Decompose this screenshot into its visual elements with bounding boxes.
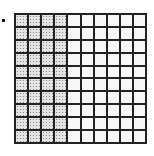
grid-cell (81, 78, 94, 91)
grid-cell (133, 40, 146, 53)
shaded-cell (28, 91, 41, 104)
grid-cell (67, 91, 80, 104)
grid-cell (94, 130, 107, 143)
grid-cell (107, 14, 120, 27)
grid-cell (133, 104, 146, 117)
grid-cell (81, 53, 94, 66)
grid-cell (133, 66, 146, 79)
shaded-cell (28, 53, 41, 66)
grid-cell (81, 14, 94, 27)
grid-cell (107, 27, 120, 40)
grid-cell (81, 91, 94, 104)
shaded-cell (41, 91, 54, 104)
grid-cell (120, 130, 133, 143)
shaded-cell (41, 14, 54, 27)
grid-cell (67, 78, 80, 91)
hundred-grid (14, 13, 147, 144)
grid-cell (107, 53, 120, 66)
grid-cell (120, 27, 133, 40)
grid-cell (120, 91, 133, 104)
grid-cell (94, 14, 107, 27)
shaded-cell (54, 104, 67, 117)
grid-cell (81, 130, 94, 143)
shaded-cell (54, 91, 67, 104)
grid-cell (94, 117, 107, 130)
grid-cell (67, 117, 80, 130)
shaded-cell (54, 53, 67, 66)
shaded-cell (41, 78, 54, 91)
grid-cell (67, 27, 80, 40)
shaded-cell (15, 78, 28, 91)
shaded-cell (41, 53, 54, 66)
grid-cell (107, 117, 120, 130)
shaded-cell (28, 130, 41, 143)
shaded-cell (54, 130, 67, 143)
grid-cell (133, 117, 146, 130)
figure-label-mark (2, 19, 5, 22)
grid-cell (81, 104, 94, 117)
grid-cell (133, 78, 146, 91)
shaded-cell (54, 78, 67, 91)
grid-cell (67, 104, 80, 117)
shaded-cell (15, 66, 28, 79)
grid-cell (94, 53, 107, 66)
shaded-cell (41, 66, 54, 79)
shaded-cell (28, 14, 41, 27)
shaded-cell (54, 117, 67, 130)
shaded-cell (15, 14, 28, 27)
grid-cell (107, 40, 120, 53)
grid-cell (120, 78, 133, 91)
grid-cell (94, 78, 107, 91)
shaded-cell (54, 27, 67, 40)
grid-cell (120, 14, 133, 27)
grid-cell (133, 14, 146, 27)
grid-cell (133, 27, 146, 40)
shaded-cell (15, 27, 28, 40)
grid-cell (67, 53, 80, 66)
shaded-cell (41, 130, 54, 143)
shaded-cell (28, 104, 41, 117)
shaded-cell (15, 53, 28, 66)
grid-cell (94, 91, 107, 104)
grid-cell (107, 130, 120, 143)
shaded-cell (54, 66, 67, 79)
grid-cell (107, 78, 120, 91)
shaded-cell (41, 117, 54, 130)
grid-cell (67, 40, 80, 53)
shaded-cell (41, 40, 54, 53)
shaded-cell (15, 40, 28, 53)
grid-cell (67, 130, 80, 143)
grid-cell (67, 66, 80, 79)
grid-cell (120, 117, 133, 130)
grid-cell (120, 40, 133, 53)
shaded-cell (28, 117, 41, 130)
grid-cell (107, 104, 120, 117)
grid-cell (67, 14, 80, 27)
grid-cell (133, 53, 146, 66)
shaded-cell (28, 66, 41, 79)
shaded-cell (15, 130, 28, 143)
grid-cell (133, 91, 146, 104)
shaded-cell (41, 104, 54, 117)
grid-cell (94, 104, 107, 117)
shaded-cell (41, 27, 54, 40)
grid-cell (81, 66, 94, 79)
grid-cell (120, 104, 133, 117)
grid-cell (107, 66, 120, 79)
grid-cell (94, 66, 107, 79)
shaded-cell (15, 117, 28, 130)
shaded-cell (28, 78, 41, 91)
grid-cell (133, 130, 146, 143)
grid-cell (120, 66, 133, 79)
grid-cell (94, 40, 107, 53)
shaded-cell (54, 40, 67, 53)
grid-cell (81, 27, 94, 40)
shaded-cell (54, 14, 67, 27)
grid-cell (94, 27, 107, 40)
shaded-cell (15, 91, 28, 104)
grid-cell (81, 40, 94, 53)
grid-cell (120, 53, 133, 66)
shaded-cell (28, 27, 41, 40)
shaded-cell (28, 40, 41, 53)
grid-cell (107, 91, 120, 104)
